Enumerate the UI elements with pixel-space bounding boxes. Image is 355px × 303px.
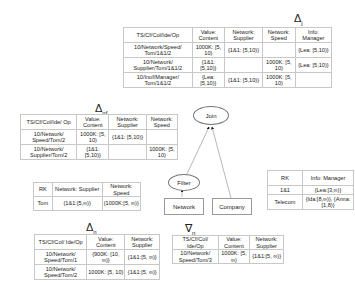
delta-j-title: Δj xyxy=(294,12,303,26)
join-node: Join xyxy=(193,106,229,125)
table-row: 10/Inof/Manager/ Tom/1&1/2 {Lea: [5,10)}… xyxy=(124,73,332,88)
filter-node: Filter xyxy=(168,174,200,191)
table-row: 10/Network/ Speed/Tom/3 1000K: [5, ∞) {1… xyxy=(173,250,284,264)
rk-info-table: RK Info: Manager 1&1 {Lea:[3,∞)} Telecom… xyxy=(267,170,354,210)
table-row: 10/Network/ Supplier/Tom/2 {1&1: [5,10)}… xyxy=(21,145,178,160)
delta-j-table: TS/Cf/Col/Ide/Op Value: Content Network:… xyxy=(123,27,332,88)
table-row: Tom {1&1:[5,∞)} {1000K:[5, ∞)} xyxy=(34,197,141,211)
rk-network-table: RK Network: Supplier Network: Speed Tom … xyxy=(33,182,141,211)
company-node: Company xyxy=(212,198,252,215)
delta-n-table: TS/Cf/Col/ Ide/Op Value: Content Network… xyxy=(34,234,160,280)
delta-nf-table: TS/Cf/Col/Ide/ Op Value: Content Network… xyxy=(20,114,178,160)
table-row: 10/Network/ Speed/Tom/2 1000K: [5, 10) {… xyxy=(35,265,160,280)
table-row: Telecom {Ida:[8,∞)}, {Anna:[1,8)} xyxy=(268,195,354,210)
table-row: 10/Network/Speed/ Tom/1&1/2 1000K: [5, 1… xyxy=(124,43,332,58)
table-row: 10/Network/ Supplier/Tom/1&1/2 {1&1: [5,… xyxy=(124,58,332,73)
nabla-n-table: TS/Cf/Col/ Ide/Op Value: Content Network… xyxy=(172,235,284,264)
network-node: Network xyxy=(164,198,204,215)
table-row: 10/Network/ Speed/Tom/1 {900K: [10, ∞)} … xyxy=(35,250,160,265)
table-row: 10/Network/ Speed/Tom/2 1000K: [5, 10) {… xyxy=(21,130,178,145)
table-row: 1&1 {Lea:[3,∞)} xyxy=(268,186,354,195)
